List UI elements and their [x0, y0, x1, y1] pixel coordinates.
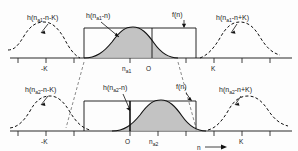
top-label-center-curve: h(na1-n) — [86, 12, 110, 21]
top-label-right-curve: h(na1-n+K) — [216, 14, 249, 23]
top-ticklabel-k: K — [211, 65, 216, 72]
bottom-label-left-curve: h(na2-n-K) — [25, 86, 56, 95]
bottom-label-right-curve: h(na2-n+K) — [219, 86, 252, 95]
top-label-left-curve: h(na1-n-K) — [27, 14, 58, 23]
figure-canvas: h(na1-n-K) h(na1-n) f(n) h(na1-n+K) -K n… — [0, 0, 298, 151]
bottom-ticklabel-na2: na2 — [149, 138, 158, 147]
bottom-panel: h(na2-n-K) h(na2-n) f(n) h(na2-n+K) -K O… — [10, 83, 292, 151]
bottom-curve-h-na2-minus-k — [10, 96, 90, 130]
connector-left — [66, 62, 84, 128]
top-curve-h-na1-plus-k — [200, 22, 280, 58]
top-ticklabel-origin: O — [146, 65, 151, 72]
top-ticklabel-na1: na1 — [122, 65, 131, 74]
bottom-axis-name: n — [197, 144, 201, 151]
bottom-leader-center-arrow — [126, 107, 130, 111]
top-curve-h-na1-minus-k — [8, 22, 80, 58]
top-label-window: f(n) — [172, 11, 183, 19]
top-ticklabel-minus-k: -K — [41, 65, 48, 72]
bottom-label-window: f(n) — [176, 83, 187, 91]
bottom-ticklabel-k: K — [239, 138, 244, 145]
top-panel: h(na1-n-K) h(na1-n) f(n) h(na1-n+K) -K n… — [8, 11, 292, 74]
bottom-ticklabel-origin: O — [125, 138, 130, 145]
top-leader-window-arrow — [182, 24, 186, 28]
signal-overlap-figure: h(na1-n-K) h(na1-n) f(n) h(na1-n+K) -K n… — [0, 0, 298, 151]
bottom-curve-h-na2-plus-k — [208, 96, 288, 130]
bottom-ticklabel-minus-k: -K — [41, 138, 48, 145]
bottom-leader-window-arrow — [188, 97, 192, 101]
bottom-axis-arrow-head — [221, 145, 227, 150]
bottom-label-center-curve: h(na2-n) — [103, 84, 127, 93]
